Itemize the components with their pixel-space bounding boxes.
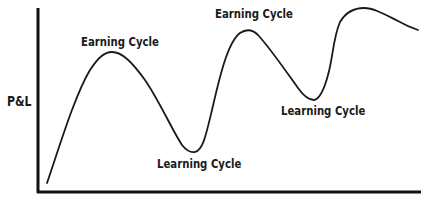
earning-cycle-label-1: Earning Cycle — [81, 35, 159, 49]
earning-cycle-label-2: Earning Cycle — [215, 7, 293, 21]
learning-cycle-label-2: Learning Cycle — [281, 104, 365, 118]
y-axis-label: P&L — [7, 94, 31, 109]
learning-cycle-label-1: Learning Cycle — [157, 157, 241, 171]
